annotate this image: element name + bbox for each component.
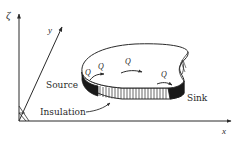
x-axis-label: x — [221, 126, 226, 136]
heat-conduction-slab-diagram: ζ y x — [0, 0, 244, 141]
heat-flow-label-q: Q — [85, 68, 91, 77]
zeta-axis-label: ζ — [6, 9, 12, 22]
source-label: Source — [46, 80, 78, 90]
insulation-pointer-arrow — [86, 103, 110, 112]
insulation-label: Insulation — [40, 107, 86, 117]
heat-flow-label-q: Q — [125, 57, 131, 66]
sink-label: Sink — [187, 93, 208, 103]
slab — [82, 44, 188, 99]
heat-flow-label-q: Q — [161, 70, 167, 79]
y-axis-label: y — [47, 25, 52, 35]
heat-flow-label-q: Q — [98, 62, 104, 71]
